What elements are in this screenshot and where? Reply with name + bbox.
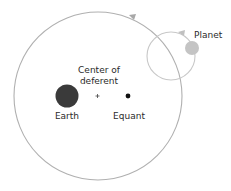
earth-label: Earth xyxy=(55,111,79,121)
earth-icon xyxy=(56,85,79,108)
center-label-line1: Center of xyxy=(78,65,121,75)
equant-dot-icon xyxy=(126,94,131,99)
center-plus-icon xyxy=(96,94,100,98)
planet-icon xyxy=(185,41,199,55)
epicycle-diagram: Planet Earth Center of deferent Equant xyxy=(0,0,231,191)
equant-label: Equant xyxy=(113,111,145,121)
planet-label: Planet xyxy=(194,30,223,40)
epicycle-circle xyxy=(147,32,195,80)
center-label-line2: deferent xyxy=(80,76,119,86)
